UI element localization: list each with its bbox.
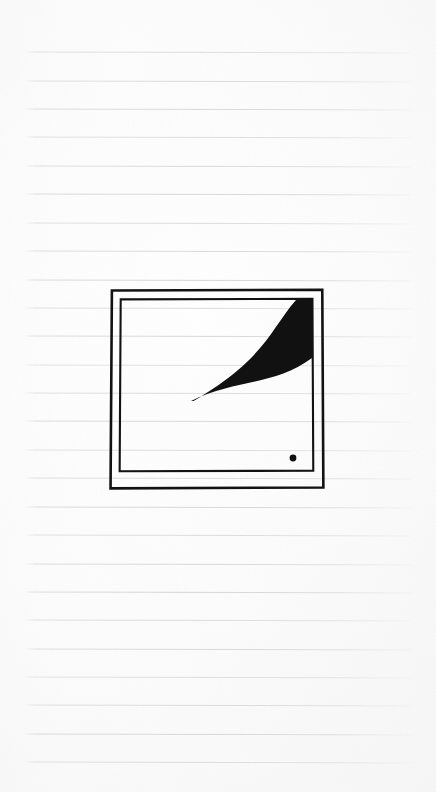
sketch-svg: [0, 0, 436, 792]
swoosh-stroke: [191, 300, 312, 401]
notebook-page: Scanned sheet of lined notebook paper wi…: [0, 0, 436, 792]
sketch-drawing: [0, 0, 436, 792]
ink-dot: [290, 455, 297, 462]
